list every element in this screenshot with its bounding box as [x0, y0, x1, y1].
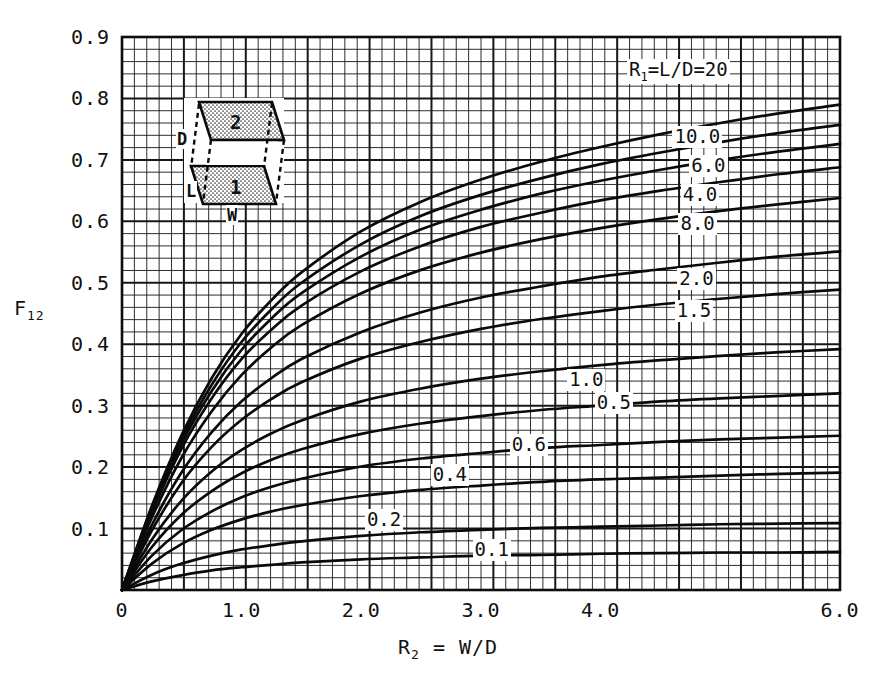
y-tick-0.8: 0.8: [44, 86, 110, 110]
y-axis-title: F12: [14, 296, 45, 323]
curve-label-1.0: 1.0: [567, 369, 605, 391]
inset-surface-2-label: 2: [230, 111, 241, 133]
y-tick-0.6: 0.6: [44, 209, 110, 233]
inset-width-label: W: [226, 205, 238, 225]
chart-canvas: [0, 0, 883, 677]
curve-label-2.0: 2.0: [677, 268, 715, 290]
x-tick-4.0: 4.0: [571, 598, 631, 622]
curve-label-0.6: 0.6: [510, 434, 548, 456]
y-tick-0.2: 0.2: [44, 455, 110, 479]
x-tick-2.0: 2.0: [331, 598, 391, 622]
y-tick-0.1: 0.1: [44, 517, 110, 541]
curve-label-0.1: 0.1: [473, 539, 511, 561]
y-tick-0.4: 0.4: [44, 332, 110, 356]
curve-label-0.5: 0.5: [595, 392, 633, 414]
curve-label-10.0: 10.0: [672, 126, 722, 148]
inset-depth-label: D: [176, 129, 188, 149]
y-tick-0.7: 0.7: [44, 148, 110, 172]
y-tick-0.9: 0.9: [44, 25, 110, 49]
x-axis-title: R2 = W/D: [398, 635, 498, 662]
curve-label-6.0: 6.0: [689, 155, 727, 177]
figure-root: 0.10.20.30.40.50.60.70.80.9 01.02.03.04.…: [0, 0, 883, 677]
curve-label-0.4: 0.4: [431, 464, 469, 486]
curve-label-0.2: 0.2: [365, 509, 403, 531]
curve-label-R1-L-D-20: R1=L/D=20: [627, 59, 730, 84]
curve-label-4.0: 4.0: [681, 184, 719, 206]
inset-length-label: L: [185, 181, 197, 201]
curve-label-8.0: 8.0: [678, 213, 716, 235]
x-tick-6.0: 6.0: [810, 598, 870, 622]
y-tick-0.3: 0.3: [44, 394, 110, 418]
x-tick-3.0: 3.0: [451, 598, 511, 622]
x-tick-1.0: 1.0: [212, 598, 272, 622]
y-tick-0.5: 0.5: [44, 271, 110, 295]
view-factor-chart: [0, 0, 883, 677]
inset-surface-1-label: 1: [230, 176, 241, 198]
curve-label-1.5: 1.5: [675, 300, 713, 322]
x-tick-0: 0: [92, 598, 152, 622]
